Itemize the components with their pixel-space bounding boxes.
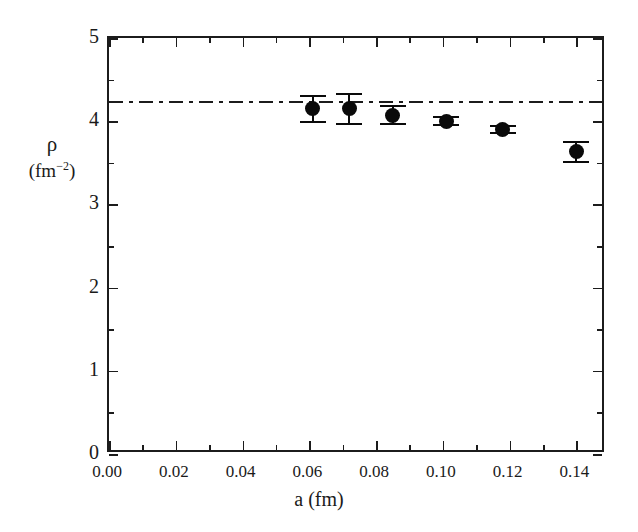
x-tick-major bbox=[176, 441, 178, 450]
x-tick-major-top bbox=[376, 38, 378, 47]
x-tick-minor-top bbox=[409, 38, 411, 43]
y-axis-unit-exponent: −2 bbox=[56, 159, 69, 173]
y-tick-major bbox=[109, 371, 118, 373]
x-tick-minor-top bbox=[476, 38, 478, 43]
y-tick-major bbox=[109, 454, 118, 456]
y-tick-minor bbox=[109, 329, 114, 331]
y-tick-major-right bbox=[593, 121, 602, 123]
data-point bbox=[305, 101, 320, 116]
y-tick-minor bbox=[109, 246, 114, 248]
plot-area bbox=[109, 38, 602, 450]
y-tick-major bbox=[109, 38, 118, 40]
x-tick-label: 0.00 bbox=[92, 463, 122, 480]
x-tick-minor bbox=[343, 445, 345, 450]
y-tick-minor-right bbox=[597, 163, 602, 165]
x-tick-major-top bbox=[510, 38, 512, 47]
x-tick-major bbox=[576, 441, 578, 450]
x-tick-minor-top bbox=[142, 38, 144, 43]
x-tick-minor-top bbox=[276, 38, 278, 43]
error-bar-cap-lower bbox=[336, 123, 362, 125]
x-tick-major-top bbox=[443, 38, 445, 47]
y-axis-unit-close: ) bbox=[69, 160, 75, 181]
x-tick-major-top bbox=[176, 38, 178, 47]
y-axis-title-symbol: ρ bbox=[6, 130, 98, 158]
x-tick-label: 0.04 bbox=[226, 463, 256, 480]
x-tick-minor bbox=[142, 445, 144, 450]
error-bar-cap-lower bbox=[300, 121, 326, 123]
y-tick-label: 4 bbox=[77, 109, 99, 129]
x-tick-major-top bbox=[309, 38, 311, 47]
data-point bbox=[342, 101, 357, 116]
plot-frame bbox=[107, 36, 604, 452]
x-tick-minor bbox=[409, 445, 411, 450]
x-tick-major bbox=[443, 441, 445, 450]
x-axis-title: a (fm) bbox=[0, 488, 638, 511]
y-tick-major-right bbox=[593, 204, 602, 206]
x-tick-minor bbox=[476, 445, 478, 450]
x-tick-major-top bbox=[576, 38, 578, 47]
x-tick-minor bbox=[543, 445, 545, 450]
y-tick-major-right bbox=[593, 454, 602, 456]
x-tick-label: 0.10 bbox=[426, 463, 456, 480]
x-tick-label: 0.12 bbox=[493, 463, 523, 480]
y-axis-title-unit: (fm−2) bbox=[6, 158, 98, 184]
x-tick-label: 0.02 bbox=[159, 463, 189, 480]
x-tick-label: 0.14 bbox=[559, 463, 589, 480]
data-point bbox=[439, 114, 454, 129]
y-tick-major bbox=[109, 204, 118, 206]
x-tick-major-top bbox=[243, 38, 245, 47]
y-tick-label: 0 bbox=[77, 442, 99, 462]
data-point bbox=[495, 122, 510, 137]
y-tick-minor-right bbox=[597, 329, 602, 331]
y-tick-major-right bbox=[593, 288, 602, 290]
x-tick-minor-top bbox=[209, 38, 211, 43]
error-bar-cap-lower bbox=[563, 161, 589, 163]
y-tick-major-right bbox=[593, 371, 602, 373]
y-tick-major-right bbox=[593, 38, 602, 40]
error-bar-cap-lower bbox=[380, 123, 406, 125]
y-tick-label: 3 bbox=[77, 192, 99, 212]
y-tick-major bbox=[109, 121, 118, 123]
y-axis-title: ρ (fm−2) bbox=[6, 130, 98, 184]
x-tick-major bbox=[376, 441, 378, 450]
x-tick-minor bbox=[209, 445, 211, 450]
x-tick-major bbox=[109, 441, 111, 450]
figure-panel: ρ (fm−2) a (fm) 0.000.020.040.060.080.10… bbox=[0, 0, 638, 532]
y-axis-unit-open: (fm bbox=[29, 160, 56, 181]
x-tick-major bbox=[510, 441, 512, 450]
y-tick-minor bbox=[109, 80, 114, 82]
x-tick-minor-top bbox=[343, 38, 345, 43]
error-bar-cap-upper bbox=[336, 93, 362, 95]
y-tick-minor-right bbox=[597, 412, 602, 414]
data-point bbox=[569, 144, 584, 159]
y-tick-label: 2 bbox=[77, 276, 99, 296]
x-tick-label: 0.06 bbox=[292, 463, 322, 480]
error-bar-cap-upper bbox=[300, 95, 326, 97]
x-tick-major bbox=[243, 441, 245, 450]
y-tick-label: 5 bbox=[77, 26, 99, 46]
y-tick-minor-right bbox=[597, 246, 602, 248]
reference-line bbox=[109, 101, 602, 103]
x-tick-minor bbox=[276, 445, 278, 450]
y-tick-minor-right bbox=[597, 80, 602, 82]
data-point bbox=[385, 108, 400, 123]
y-tick-minor bbox=[109, 163, 114, 165]
error-bar-cap-upper bbox=[563, 141, 589, 143]
x-tick-major bbox=[309, 441, 311, 450]
x-tick-label: 0.08 bbox=[359, 463, 389, 480]
y-tick-major bbox=[109, 288, 118, 290]
x-tick-minor-top bbox=[543, 38, 545, 43]
y-tick-label: 1 bbox=[77, 359, 99, 379]
y-tick-minor bbox=[109, 412, 114, 414]
